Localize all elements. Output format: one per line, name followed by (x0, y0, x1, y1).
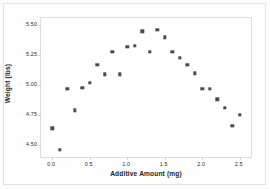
x-axis-label: Additive Amount (mg) (40, 170, 252, 177)
x-tick-label: 1.5 (160, 161, 168, 167)
y-tick-mark (38, 115, 41, 116)
y-tick-mark (38, 25, 41, 26)
x-tick-mark (52, 157, 53, 160)
data-point (88, 81, 91, 84)
data-point (103, 73, 106, 76)
data-point (148, 50, 151, 53)
data-point (208, 87, 211, 90)
y-tick-mark (38, 55, 41, 56)
data-point (118, 73, 121, 76)
y-tick-label: 5.50 (26, 21, 37, 27)
data-point (223, 106, 226, 109)
y-tick-label: 4.75 (26, 111, 37, 117)
x-tick-label: 2.0 (197, 161, 205, 167)
data-point (73, 109, 76, 112)
data-point (156, 28, 159, 31)
data-point (201, 87, 204, 90)
data-point (193, 71, 196, 74)
data-point (238, 113, 241, 116)
y-tick-label: 4.50 (26, 141, 37, 147)
data-point (231, 124, 234, 127)
x-tick-mark (127, 157, 128, 160)
data-point (216, 98, 219, 101)
x-tick-mark (202, 157, 203, 160)
scatter-plot-figure: Weight (lbs) 5.505.255.004.754.50 0.00.5… (0, 0, 270, 189)
x-tick-mark (90, 157, 91, 160)
y-tick-label: 5.25 (26, 51, 37, 57)
y-axis-tick-labels: 5.505.255.004.754.50 (14, 17, 37, 158)
x-tick-label: 0.0 (47, 161, 55, 167)
data-point (186, 63, 189, 66)
data-point (111, 50, 114, 53)
data-point (178, 56, 181, 59)
data-point (171, 50, 174, 53)
data-point (141, 29, 144, 32)
x-tick-label: 1.0 (122, 161, 130, 167)
data-point (66, 87, 69, 90)
data-point (133, 44, 136, 47)
y-axis-label: Weight (lbs) (4, 44, 11, 124)
x-tick-mark (240, 157, 241, 160)
data-point (58, 148, 61, 151)
y-tick-mark (38, 145, 41, 146)
data-point (126, 45, 129, 48)
y-tick-label: 5.00 (26, 81, 37, 87)
data-point (96, 63, 99, 66)
data-point (81, 86, 84, 89)
plot-area (40, 17, 252, 158)
data-point (163, 35, 166, 38)
y-tick-mark (38, 85, 41, 86)
x-tick-mark (165, 157, 166, 160)
x-tick-label: 0.5 (85, 161, 93, 167)
x-tick-label: 2.5 (235, 161, 243, 167)
data-point (51, 127, 54, 130)
x-axis-tick-labels: 0.00.51.01.52.02.5 (40, 161, 252, 170)
